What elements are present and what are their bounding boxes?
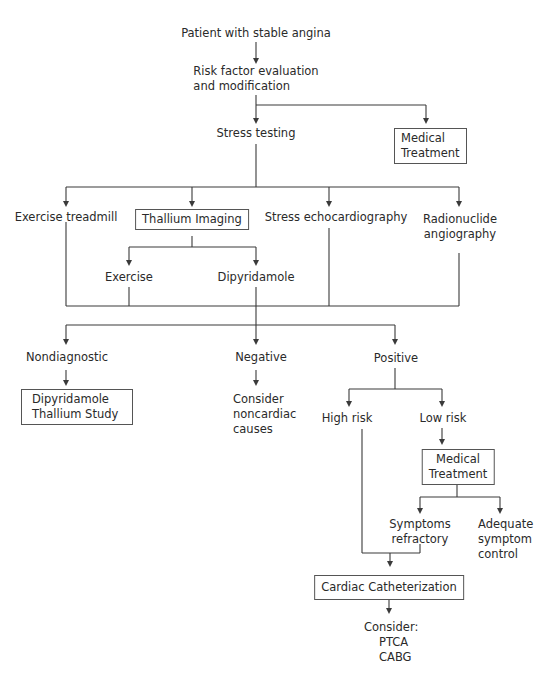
medical-low-line-2: Treatment <box>429 467 488 482</box>
noncardiac-line-2: noncardiac <box>233 407 296 422</box>
medical-low-line-1: Medical <box>429 452 488 467</box>
node-cardiac-catheterization: Cardiac Catheterization <box>314 575 464 600</box>
noncardiac-line-3: causes <box>233 422 296 437</box>
node-exercise: Exercise <box>105 270 153 285</box>
node-consider-ptca-cabg: Consider: PTCA CABG <box>364 620 418 665</box>
consider-line-1: Consider: <box>364 620 418 635</box>
noncardiac-line-1: Consider <box>233 392 296 407</box>
medical-top-line-2: Treatment <box>401 146 460 161</box>
dipy-thallium-line-2: Thallium Study <box>28 407 126 422</box>
node-radionuclide: Radionuclide angiography <box>423 212 497 242</box>
radionuclide-line-2: angiography <box>423 227 497 242</box>
node-risk-factor: Risk factor evaluation and modification <box>193 64 318 94</box>
node-dipyridamole: Dipyridamole <box>218 270 295 285</box>
node-start: Patient with stable angina <box>181 26 331 41</box>
symptoms-line-1: Symptoms <box>389 517 450 532</box>
adequate-line-1: Adequate <box>478 517 533 532</box>
node-adequate-control: Adequate symptom control <box>478 517 533 562</box>
node-medical-treatment-top: Medical Treatment <box>394 128 467 164</box>
node-thallium-imaging: Thallium Imaging <box>135 209 249 230</box>
node-negative: Negative <box>235 350 287 365</box>
risk-line-1: Risk factor evaluation <box>193 64 318 79</box>
node-dipyridamole-thallium-study: Dipyridamole Thallium Study <box>21 389 133 425</box>
node-stress-echo: Stress echocardiography <box>265 210 408 225</box>
node-high-risk: High risk <box>322 411 373 426</box>
node-positive: Positive <box>374 351 418 366</box>
risk-line-2: and modification <box>193 79 318 94</box>
node-exercise-treadmill: Exercise treadmill <box>15 210 118 225</box>
node-consider-noncardiac: Consider noncardiac causes <box>233 392 296 437</box>
adequate-line-3: control <box>478 547 533 562</box>
radionuclide-line-1: Radionuclide <box>423 212 497 227</box>
consider-line-3: CABG <box>364 650 418 665</box>
dipy-thallium-line-1: Dipyridamole <box>28 392 126 407</box>
consider-line-2: PTCA <box>364 635 418 650</box>
symptoms-line-2: refractory <box>389 532 450 547</box>
node-medical-treatment-low: Medical Treatment <box>422 449 495 485</box>
medical-top-line-1: Medical <box>401 131 460 146</box>
node-low-risk: Low risk <box>420 411 467 426</box>
node-nondiagnostic: Nondiagnostic <box>26 350 108 365</box>
flowchart-canvas: Patient with stable angina Risk factor e… <box>0 0 543 677</box>
node-symptoms-refractory: Symptoms refractory <box>389 517 450 547</box>
adequate-line-2: symptom <box>478 532 533 547</box>
node-stress-testing: Stress testing <box>217 126 296 141</box>
